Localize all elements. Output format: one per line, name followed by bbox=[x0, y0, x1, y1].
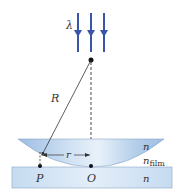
point-p-label: P bbox=[35, 172, 44, 185]
lens-index-label: n bbox=[143, 141, 149, 152]
point-o-dot bbox=[89, 164, 93, 168]
film-index-subscript: film bbox=[149, 159, 165, 168]
film-index-label: nfilm bbox=[143, 155, 165, 168]
newtons-rings-diagram: λ R r P O n nfilm n bbox=[0, 0, 179, 194]
wavelength-label: λ bbox=[65, 19, 73, 32]
incident-light-arrows bbox=[74, 13, 108, 52]
point-o-label: O bbox=[87, 172, 96, 185]
plate-index-label: n bbox=[143, 173, 149, 184]
point-p-dot bbox=[38, 164, 42, 168]
radius-label: R bbox=[50, 92, 59, 105]
